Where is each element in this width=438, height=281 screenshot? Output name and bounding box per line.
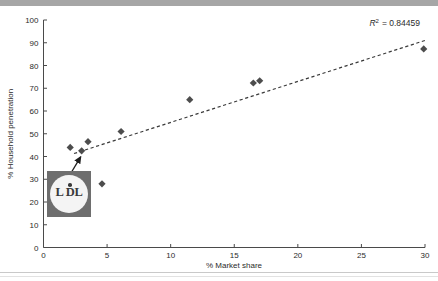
y-tick-label: 60 (30, 107, 39, 116)
data-point-marker (78, 147, 85, 154)
r-squared-exponent: 2 (376, 18, 380, 24)
y-tick-label: 0 (34, 244, 39, 253)
data-point-marker (250, 79, 257, 86)
x-axis-title: % Market share (206, 261, 263, 270)
data-point-marker (84, 138, 91, 145)
x-tick-label: 20 (293, 251, 302, 260)
axes-group (44, 20, 426, 248)
x-axis-ticks: 051015202530 (41, 244, 430, 260)
page-root: 0102030405060708090100 051015202530 % Ho… (0, 0, 438, 281)
data-point-marker (98, 180, 105, 187)
y-tick-label: 50 (30, 130, 39, 139)
r-squared-annotation: R2= 0.84459 (369, 18, 420, 28)
y-tick-label: 100 (25, 16, 39, 25)
scatter-chart: 0102030405060708090100 051015202530 % Ho… (0, 6, 438, 272)
y-tick-label: 80 (30, 62, 39, 71)
lidl-logo: L DL (47, 171, 91, 217)
data-point-marker (67, 144, 74, 151)
y-tick-label: 20 (30, 198, 39, 207)
data-point-marker (256, 77, 263, 84)
logo-wordmark: L DL (47, 186, 91, 199)
data-markers (67, 45, 428, 187)
trendline-group (74, 40, 425, 153)
r-squared-value: = 0.84459 (382, 18, 420, 28)
data-point-marker (186, 96, 193, 103)
y-tick-label: 10 (30, 221, 39, 230)
x-tick-label: 15 (230, 251, 239, 260)
data-point-marker (420, 45, 427, 52)
plot-canvas: 0102030405060708090100 051015202530 % Ho… (0, 6, 438, 272)
y-axis-title: % Household penetration (6, 89, 15, 179)
x-tick-label: 5 (105, 251, 110, 260)
trendline (74, 40, 425, 153)
bottom-rule-secondary (0, 276, 438, 277)
y-tick-label: 30 (30, 175, 39, 184)
y-tick-label: 70 (30, 84, 39, 93)
data-point-marker (117, 128, 124, 135)
x-tick-label: 30 (421, 251, 430, 260)
x-tick-label: 10 (166, 251, 175, 260)
y-tick-label: 40 (30, 153, 39, 162)
x-tick-label: 0 (41, 251, 46, 260)
bottom-rule-primary (0, 272, 438, 273)
y-tick-label: 90 (30, 39, 39, 48)
x-tick-label: 25 (357, 251, 366, 260)
